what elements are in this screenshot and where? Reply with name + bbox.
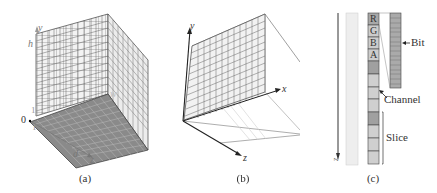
label-channel: Channel — [384, 93, 421, 105]
caption-c: (c) — [353, 172, 393, 184]
panel-b: y x z (b) — [150, 0, 300, 193]
cell-r: R — [370, 13, 377, 24]
axis-label-one-y: 1 — [31, 105, 36, 115]
panel-a: y h w 0 1 1 d z (a) — [0, 0, 150, 193]
panel-c: z R G B A Bit Channel Slice (c) — [300, 0, 437, 193]
caption-a: (a) — [65, 172, 105, 184]
axis-label-w: w — [110, 88, 117, 99]
axis-label-origin: 0 — [21, 114, 26, 125]
cube-grid-diagram — [0, 0, 150, 193]
cell-a: A — [370, 49, 377, 60]
cell-g: G — [370, 25, 377, 36]
cell-b: B — [370, 37, 377, 48]
axis-label-z: z — [90, 154, 94, 165]
axis-label-one-z: 1 — [32, 122, 37, 132]
axis-label-z: z — [243, 152, 247, 163]
caption-b: (b) — [223, 172, 263, 184]
axis-label-d: d — [73, 148, 78, 159]
axis-label-y: y — [38, 22, 42, 33]
label-slice: Slice — [386, 131, 408, 143]
axis-label-x: x — [282, 83, 286, 94]
axis-label-y: y — [190, 20, 194, 31]
axis-label-z: z — [331, 158, 340, 161]
slab-diagram — [150, 0, 300, 193]
label-bit: Bit — [411, 36, 424, 48]
axis-label-h: h — [28, 38, 33, 49]
